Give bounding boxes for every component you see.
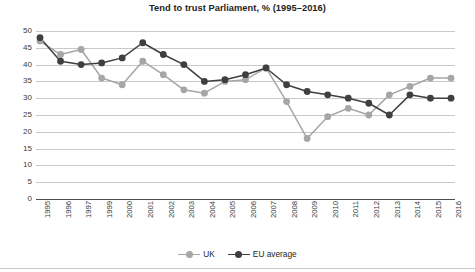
data-point[interactable] [283, 81, 290, 88]
data-point[interactable] [139, 39, 146, 46]
data-point[interactable] [365, 112, 372, 119]
y-tick-label: 25 [2, 111, 32, 119]
data-point[interactable] [139, 58, 146, 65]
data-point[interactable] [345, 105, 352, 112]
x-tick-label: 2001 [146, 201, 155, 218]
x-tick-label: 2015 [434, 201, 443, 218]
x-tick-label: 2009 [310, 201, 319, 218]
data-point[interactable] [201, 90, 208, 97]
data-point[interactable] [324, 113, 331, 120]
data-point[interactable] [78, 61, 85, 68]
x-tick-label: 2003 [187, 201, 196, 218]
legend-item-uk[interactable]: UK [178, 249, 215, 259]
data-point[interactable] [263, 65, 270, 72]
data-point[interactable] [242, 71, 249, 78]
data-point[interactable] [386, 91, 393, 98]
x-tick-label: 2002 [167, 201, 176, 218]
chart-container: Tend to trust Parliament, % (1995–2016) … [0, 0, 475, 272]
chart-title: Tend to trust Parliament, % (1995–2016) [0, 3, 475, 13]
data-point[interactable] [222, 76, 229, 83]
x-tick-label: 2011 [351, 201, 360, 218]
y-tick-label: 15 [2, 145, 32, 153]
data-point[interactable] [180, 86, 187, 93]
data-point[interactable] [201, 78, 208, 85]
x-tick-label: 2000 [125, 201, 134, 218]
legend-dot [235, 251, 242, 258]
y-tick-label: 30 [2, 94, 32, 102]
y-axis-labels: 05101520253035404550 [0, 31, 32, 199]
x-tick-label: 2012 [372, 201, 381, 218]
data-point[interactable] [365, 100, 372, 107]
legend-item-eu-average[interactable]: EU average [228, 249, 297, 259]
x-tick-label: 2016 [454, 201, 463, 218]
data-point[interactable] [427, 75, 434, 82]
x-axis-labels: 1995199619971999200020012002200320042005… [36, 201, 455, 247]
y-tick-label: 0 [2, 195, 32, 203]
line-marker-icon [228, 250, 250, 259]
x-tick-label: 1996 [64, 201, 73, 218]
x-tick-label: 1995 [43, 201, 52, 218]
data-point[interactable] [448, 75, 455, 82]
gridline-0 [36, 199, 455, 200]
x-tick-label: 2006 [249, 201, 258, 218]
chart-legend: UK EU average [0, 249, 475, 259]
x-tick-label: 2010 [331, 201, 340, 218]
series-line-uk [40, 41, 451, 138]
x-tick-label: 2014 [413, 201, 422, 218]
data-point[interactable] [37, 34, 44, 41]
data-point[interactable] [57, 58, 64, 65]
x-tick-label: 1997 [84, 201, 93, 218]
y-tick-label: 10 [2, 161, 32, 169]
legend-label-eu-average: EU average [253, 249, 297, 259]
y-tick-label: 35 [2, 77, 32, 85]
x-tick-label: 2013 [393, 201, 402, 218]
data-point[interactable] [304, 88, 311, 95]
data-point[interactable] [180, 61, 187, 68]
y-tick-label: 45 [2, 44, 32, 52]
y-tick-label: 20 [2, 128, 32, 136]
plot-area [36, 31, 455, 199]
data-point[interactable] [98, 75, 105, 82]
series-svg [36, 31, 455, 199]
line-marker-icon [178, 250, 200, 259]
x-tick-label: 2005 [228, 201, 237, 218]
data-point[interactable] [119, 54, 126, 61]
y-tick-label: 5 [2, 178, 32, 186]
data-point[interactable] [407, 91, 414, 98]
data-point[interactable] [160, 51, 167, 58]
x-tick-label: 2008 [290, 201, 299, 218]
data-point[interactable] [78, 46, 85, 53]
x-tick-label: 2004 [208, 201, 217, 218]
x-tick-label: 1999 [105, 201, 114, 218]
data-point[interactable] [283, 98, 290, 105]
footer-divider [0, 268, 475, 269]
y-tick-label: 40 [2, 61, 32, 69]
data-point[interactable] [98, 60, 105, 67]
data-point[interactable] [407, 83, 414, 90]
data-point[interactable] [160, 71, 167, 78]
y-tick-label: 50 [2, 27, 32, 35]
data-point[interactable] [427, 95, 434, 102]
data-point[interactable] [386, 112, 393, 119]
legend-dot [186, 251, 193, 258]
data-point[interactable] [119, 81, 126, 88]
data-point[interactable] [304, 135, 311, 142]
legend-label-uk: UK [203, 249, 215, 259]
data-point[interactable] [324, 91, 331, 98]
data-point[interactable] [57, 51, 64, 58]
x-tick-label: 2007 [269, 201, 278, 218]
data-point[interactable] [448, 95, 455, 102]
data-point[interactable] [345, 95, 352, 102]
